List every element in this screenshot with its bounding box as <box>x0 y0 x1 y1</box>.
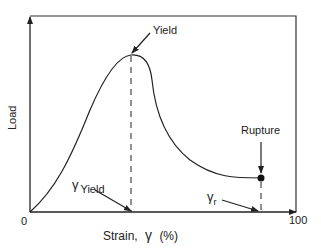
y-axis-label: Load <box>6 106 18 130</box>
x-axis-symbol: γ <box>145 227 152 243</box>
gamma-yield-subscript: Yield <box>81 183 105 195</box>
yield-arrow <box>132 33 150 53</box>
origin-label: 0 <box>21 215 27 227</box>
rupture-label: Rupture <box>241 124 280 136</box>
x-axis-unit: (%) <box>159 229 178 243</box>
x-max-label: 100 <box>289 214 307 226</box>
x-axis-title: Strain, γ (%) <box>103 227 178 243</box>
rupture-point <box>258 175 265 182</box>
gamma-yield-symbol: γ <box>72 177 79 192</box>
yield-label: Yield <box>153 24 177 36</box>
gamma-r-symbol: γ <box>207 189 214 204</box>
gamma-r-subscript: r <box>214 197 217 207</box>
gamma-r-arrow <box>222 200 258 211</box>
x-axis-label: Strain, <box>103 229 138 243</box>
gamma-yield-label: γYield <box>72 177 105 192</box>
frame <box>30 16 296 212</box>
load-curve <box>30 55 261 212</box>
gamma-r-label: γr <box>207 189 217 204</box>
